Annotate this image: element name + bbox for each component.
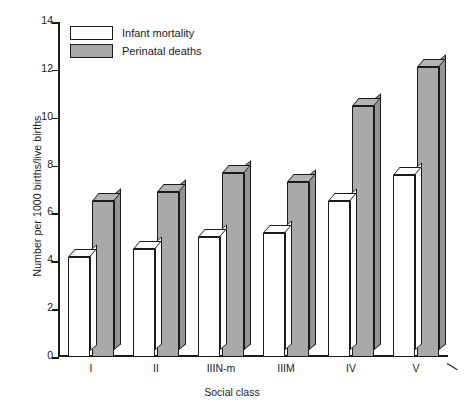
- bar-group: IIIN-m: [194, 22, 259, 357]
- plot-area: 02468101214 IIIIIIN-mIIIMIVV: [58, 22, 456, 357]
- bar-side-face: [374, 93, 381, 350]
- bar-group: I: [64, 22, 129, 357]
- bar-side-face: [285, 220, 292, 350]
- bar-chart: Number per 1000 births/live births Socia…: [0, 0, 464, 414]
- bar-infant-mortality: [393, 175, 415, 357]
- bar-side-face: [114, 189, 121, 350]
- y-tick-label: 8: [47, 158, 53, 170]
- bar-infant-mortality: [68, 257, 90, 358]
- bar-side-face: [415, 163, 422, 350]
- bar-series-layer: IIIIIIN-mIIIMIVV: [58, 22, 456, 357]
- legend-item-infant-mortality: Infant mortality: [70, 24, 202, 41]
- legend: Infant mortality Perinatal deaths: [70, 24, 202, 60]
- bar-infant-mortality: [263, 233, 285, 357]
- bar-front-face: [328, 201, 350, 357]
- bar-side-face: [220, 225, 227, 350]
- bar-group: II: [129, 22, 194, 357]
- y-tick-label: 4: [47, 253, 53, 265]
- bar-infant-mortality: [133, 249, 155, 357]
- y-tick-label: 2: [47, 301, 53, 313]
- bar-side-face: [244, 160, 251, 350]
- bar-side-face: [155, 237, 162, 350]
- y-tick-label: 12: [41, 62, 53, 74]
- legend-item-perinatal-deaths: Perinatal deaths: [70, 42, 202, 59]
- x-tick-label: II: [129, 362, 183, 374]
- bar-side-face: [90, 244, 97, 350]
- y-tick-label: 10: [41, 110, 53, 122]
- bar-side-face: [439, 55, 446, 350]
- x-tick-label: IIIM: [259, 362, 313, 374]
- legend-label: Perinatal deaths: [122, 45, 202, 57]
- y-axis-title: Number per 1000 births/live births: [31, 96, 43, 296]
- bar-front-face: [133, 249, 155, 357]
- x-tick-label: I: [64, 362, 118, 374]
- bar-front-face: [198, 237, 220, 357]
- bar-side-face: [350, 189, 357, 350]
- bar-side-face: [309, 170, 316, 350]
- bar-front-face: [263, 233, 285, 357]
- bar-group: V: [389, 22, 454, 357]
- bar-group: IIIM: [259, 22, 324, 357]
- legend-swatch-icon: [70, 26, 113, 40]
- bar-side-face: [179, 179, 186, 350]
- legend-label: Infant mortality: [122, 27, 194, 39]
- x-tick-label: V: [389, 362, 443, 374]
- bar-group: IV: [324, 22, 389, 357]
- y-tick-label: 14: [41, 14, 53, 26]
- x-axis-title: Social class: [0, 386, 464, 398]
- x-tick-label: IV: [324, 362, 378, 374]
- y-tick-label: 0: [47, 349, 53, 361]
- legend-swatch-icon: [70, 44, 113, 58]
- bar-infant-mortality: [198, 237, 220, 357]
- y-tick-label: 6: [47, 205, 53, 217]
- x-tick-label: IIIN-m: [194, 362, 248, 374]
- x-axis-depth-edge: [447, 363, 458, 370]
- bar-infant-mortality: [328, 201, 350, 357]
- bar-front-face: [68, 257, 90, 358]
- bar-front-face: [393, 175, 415, 357]
